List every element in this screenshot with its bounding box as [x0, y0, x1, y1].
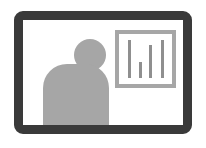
chart-bar: [161, 40, 164, 78]
screen-frame: [14, 11, 192, 134]
chart-bar: [139, 62, 142, 78]
bar-chart-icon: [115, 30, 176, 88]
chart-bar: [149, 45, 152, 78]
person-body-icon: [43, 64, 109, 134]
chart-bar: [128, 40, 131, 78]
